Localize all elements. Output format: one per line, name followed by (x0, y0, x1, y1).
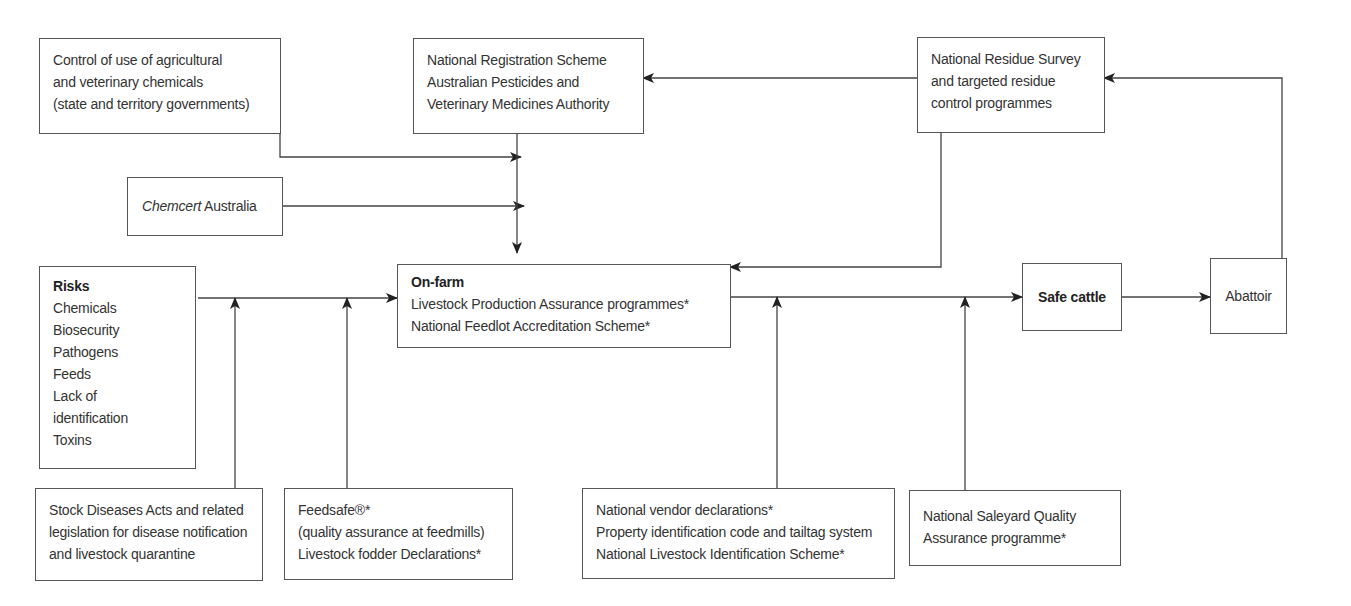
box-line: legislation for disease notification (49, 521, 249, 543)
box-line: and livestock quarantine (49, 543, 249, 565)
box-line: National Registration Scheme (427, 49, 630, 71)
box-line: Stock Diseases Acts and related (49, 499, 249, 521)
connector-abattoir-to-residue (1104, 78, 1282, 258)
feedsafe-box: Feedsafe®* (quality assurance at feedmil… (284, 488, 513, 580)
box-line: and veterinary chemicals (53, 71, 267, 93)
chemcert-box: Chemcert Australia (127, 177, 283, 236)
risk-item: Toxins (53, 429, 182, 451)
box-line: National Residue Survey (931, 48, 1091, 70)
box-line: (state and territory governments) (53, 93, 267, 115)
vendor-declarations-box: National vendor declarations* Property i… (582, 488, 895, 579)
box-line: Livestock Production Assurance programme… (411, 293, 717, 315)
box-line: Property identification code and tailtag… (596, 521, 881, 543)
box-line: and targeted residue (931, 70, 1091, 92)
control-chemicals-box: Control of use of agricultural and veter… (39, 38, 281, 134)
on-farm-box: On-farm Livestock Production Assurance p… (397, 264, 731, 348)
risk-item: Chemicals (53, 297, 182, 319)
box-line: Feedsafe®* (298, 499, 499, 521)
chemcert-italic: Chemcert (142, 198, 201, 214)
box-line: (quality assurance at feedmills) (298, 521, 499, 543)
box-line: Chemcert Australia (142, 195, 268, 217)
connector-control-to-onfarm (280, 133, 521, 157)
box-line: control programmes (931, 92, 1091, 114)
risk-item: identification (53, 407, 182, 429)
box-line: Livestock fodder Declarations* (298, 543, 499, 565)
abattoir-box: Abattoir (1210, 258, 1287, 334)
on-farm-title: On-farm (411, 271, 717, 293)
box-line: Veterinary Medicines Authority (427, 93, 630, 115)
box-line: National Livestock Identification Scheme… (596, 543, 881, 565)
residue-survey-box: National Residue Survey and targeted res… (917, 37, 1105, 133)
national-registration-box: National Registration Scheme Australian … (413, 38, 644, 134)
chemcert-rest: Australia (201, 198, 257, 214)
risk-item: Pathogens (53, 341, 182, 363)
safe-cattle-label: Safe cattle (1038, 286, 1106, 308)
risks-title: Risks (53, 275, 182, 297)
box-line: Control of use of agricultural (53, 49, 267, 71)
box-line: Australian Pesticides and (427, 71, 630, 93)
risks-box: Risks Chemicals Biosecurity Pathogens Fe… (39, 266, 196, 469)
safe-cattle-box: Safe cattle (1022, 263, 1122, 331)
saleyard-box: National Saleyard Quality Assurance prog… (909, 490, 1121, 566)
abattoir-label: Abattoir (1225, 285, 1272, 307)
box-line: National Feedlot Accreditation Scheme* (411, 315, 717, 337)
risk-item: Lack of (53, 385, 182, 407)
stock-diseases-box: Stock Diseases Acts and related legislat… (35, 488, 263, 581)
risk-item: Feeds (53, 363, 182, 385)
box-line: National vendor declarations* (596, 499, 881, 521)
risk-item: Biosecurity (53, 319, 182, 341)
box-line: Assurance programme* (923, 527, 1107, 549)
box-line: National Saleyard Quality (923, 505, 1107, 527)
connector-residue-to-onfarm (730, 132, 941, 267)
